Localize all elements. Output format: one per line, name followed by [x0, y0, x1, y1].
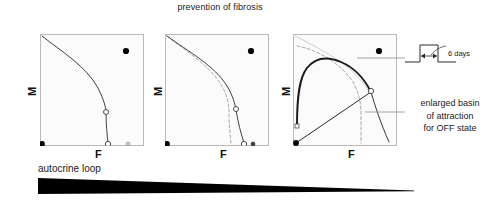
pulse-arrow-head-right	[433, 54, 437, 59]
basin-annotation-line-1: enlarged basin	[404, 97, 496, 110]
wedge-shape	[38, 178, 414, 194]
panel-baseline-plot	[40, 34, 144, 146]
fixed-point-off-state	[293, 140, 299, 146]
autocrine-loop-wedge	[38, 177, 418, 195]
panel-baseline-y-label: M	[26, 87, 38, 96]
fixed-point-saddle-axis	[105, 141, 110, 146]
panel-enlarged-basin-y-label: M	[280, 87, 292, 96]
panel-partial-prevention	[165, 34, 269, 146]
fixed-point-hot-fibrosis-axis	[295, 124, 299, 128]
panel-partial-prevention-y-label: M	[152, 87, 164, 96]
basin-annotation-line-2: of attraction	[404, 110, 496, 123]
basin-annotation-line-3: for OFF state	[404, 122, 496, 135]
fixed-point-cold-fibrosis	[126, 142, 130, 146]
figure-root: prevention of fibrosis M F	[0, 0, 498, 200]
pulse-arrow-head-left	[421, 54, 425, 59]
panel-baseline	[40, 34, 144, 146]
autocrine-loop-label: autocrine loop	[38, 163, 101, 174]
figure-title: prevention of fibrosis	[0, 2, 440, 12]
panel-enlarged-basin-x-label: F	[348, 148, 355, 160]
fixed-point-saddle-upper	[234, 107, 239, 112]
pulse-duration-label: 6 days	[448, 49, 470, 58]
panel-partial-prevention-plot	[165, 34, 269, 146]
panel-partial-prevention-x-label: F	[220, 148, 227, 160]
fixed-point-cold-fibrosis	[251, 142, 255, 146]
fixed-point-on-state	[248, 48, 254, 54]
panel-baseline-x-label: F	[95, 148, 102, 160]
fixed-point-saddle-upper	[104, 110, 109, 115]
fixed-point-saddle-axis	[241, 141, 246, 146]
basin-annotation: enlarged basin of attraction for OFF sta…	[404, 97, 496, 135]
fixed-point-on-state	[123, 48, 129, 54]
